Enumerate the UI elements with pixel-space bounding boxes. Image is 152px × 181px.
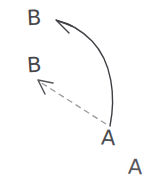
dashed-arrowhead-icon (38, 80, 53, 94)
sketch-canvas: B B A A (0, 0, 152, 181)
straight-dashed-arrow (38, 80, 106, 124)
label-b-top: B (26, 8, 42, 30)
label-b-middle: B (26, 55, 42, 77)
label-a-origin: A (100, 128, 115, 150)
label-a-corner: A (128, 157, 143, 178)
straight-dashed-arrow-shaft (40, 82, 106, 124)
